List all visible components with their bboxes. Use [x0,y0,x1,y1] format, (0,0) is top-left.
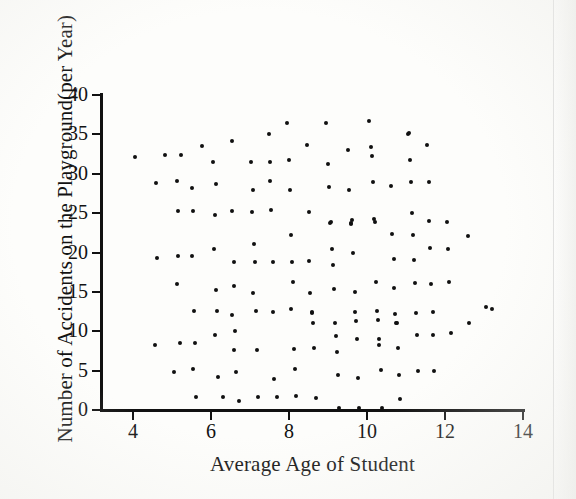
data-point [175,282,179,286]
y-tick [92,252,101,254]
y-tick [92,291,101,293]
data-point [356,376,360,380]
x-tick-label: 8 [269,421,309,441]
data-point [412,258,416,262]
y-tick [92,409,101,411]
data-point [333,321,337,325]
data-point [392,286,396,290]
data-point [409,180,413,184]
data-point [308,291,312,295]
data-point [329,220,333,224]
x-axis-line [100,409,525,412]
data-point [214,288,218,292]
data-point [252,242,256,246]
data-point [237,399,241,403]
data-point [287,158,291,162]
y-tick [92,330,101,332]
data-point [221,395,225,399]
data-point [332,287,336,291]
data-point [190,254,194,258]
data-point [255,348,259,352]
data-point [376,318,380,322]
data-point [370,154,374,158]
data-point [213,333,217,337]
data-point [292,347,296,351]
data-point [466,234,470,238]
data-point [216,375,220,379]
data-point [490,307,494,311]
data-point [154,181,158,185]
data-point [268,179,272,183]
data-point [427,180,431,184]
data-point [232,348,236,352]
data-point [271,260,275,264]
data-point [324,121,328,125]
scatter-plot-figure: 0510152025303540 468101214 Average Age o… [0,0,576,499]
data-point [249,160,253,164]
data-point [447,280,451,284]
data-point [285,121,289,125]
data-point [374,280,378,284]
data-point [194,395,198,399]
data-point [392,257,396,261]
data-point [230,313,234,317]
data-point [449,331,453,335]
data-point [375,309,379,313]
data-point [215,309,219,313]
plot-area: 0510152025303540 468101214 Average Age o… [0,0,576,499]
data-point [416,369,420,373]
data-point [214,182,218,186]
data-point [346,148,350,152]
data-point [213,213,217,217]
data-point [250,210,254,214]
data-point [410,211,414,215]
data-point [350,218,354,222]
data-point [133,155,137,159]
data-point [312,346,316,350]
data-point [230,209,234,213]
data-point [425,143,429,147]
data-point [251,291,255,295]
data-point [290,260,294,264]
x-tick-label: 6 [191,421,231,441]
data-point [191,367,195,371]
data-point [307,210,311,214]
data-point [272,377,276,381]
y-tick [92,94,101,96]
data-point [178,341,182,345]
x-tick [288,411,290,420]
data-point [396,346,400,350]
data-point [314,396,318,400]
data-point [294,394,298,398]
data-point [289,307,293,311]
data-point [330,247,334,251]
data-point [428,246,432,250]
x-tick-label: 14 [503,421,543,441]
data-point [379,368,383,372]
data-point [191,209,195,213]
data-point [380,406,384,410]
data-point [190,186,194,190]
data-point [275,395,279,399]
data-point [484,305,488,309]
data-point [327,185,331,189]
x-tick [366,411,368,420]
data-point [408,158,412,162]
data-point [163,153,167,157]
data-point [353,290,357,294]
data-point [355,337,359,341]
data-point [307,259,311,263]
x-axis-title: Average Age of Student [100,452,525,477]
data-point [233,329,237,333]
data-point [311,321,315,325]
data-point [254,309,258,313]
x-tick-label: 4 [113,421,153,441]
data-point [395,321,399,325]
x-tick-label: 10 [347,421,387,441]
data-point [172,370,176,374]
data-point [289,233,293,237]
data-point [230,139,234,143]
data-point [176,254,180,258]
y-tick [92,212,101,214]
data-point [373,220,377,224]
